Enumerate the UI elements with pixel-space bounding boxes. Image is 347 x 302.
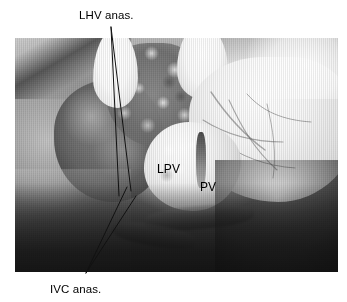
operative-photograph: LPV PV xyxy=(15,38,338,272)
figure-root: LPV PV LHV anas. IVC anas. xyxy=(0,0,347,302)
label-ivc-anastomosis: IVC anas. xyxy=(50,283,101,295)
label-pv: PV xyxy=(200,180,216,194)
label-lpv: LPV xyxy=(157,162,180,176)
label-lhv-anastomosis: LHV anas. xyxy=(79,9,134,21)
film-grain-texture xyxy=(15,38,338,272)
